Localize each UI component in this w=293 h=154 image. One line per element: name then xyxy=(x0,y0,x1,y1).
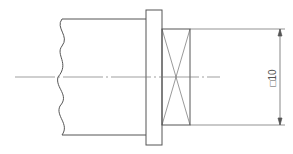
arrow-up-icon xyxy=(278,29,282,36)
technical-drawing xyxy=(0,0,293,154)
dimension-label: □10 xyxy=(265,68,281,88)
flange xyxy=(146,10,162,145)
arrow-down-icon xyxy=(278,118,282,125)
